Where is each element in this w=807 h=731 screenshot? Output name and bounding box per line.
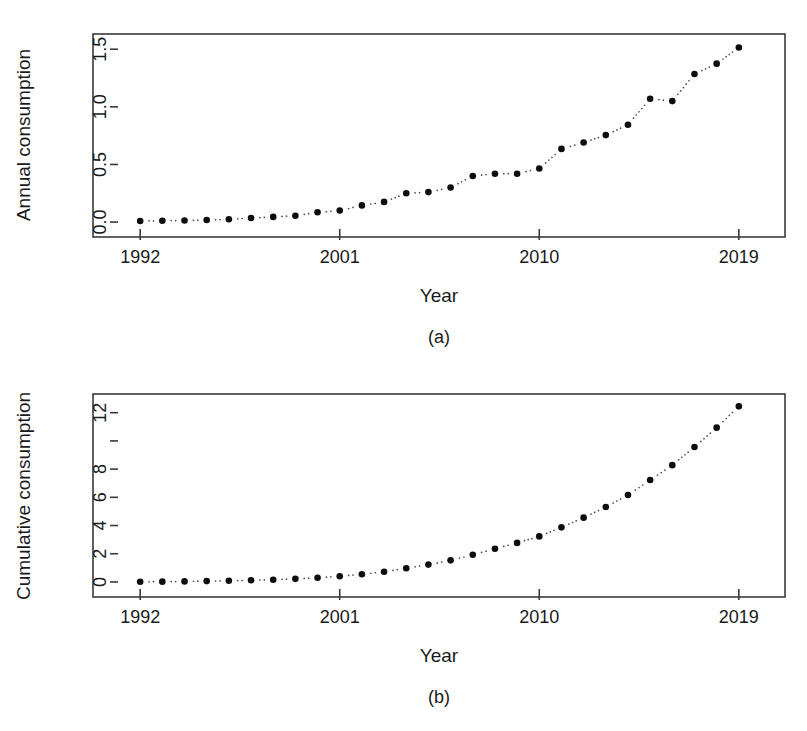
x-tick-label: 2019 [719,607,759,627]
data-point [181,578,188,585]
data-point [203,578,210,585]
y-tick-label: 1.5 [90,37,110,62]
data-point [514,170,521,177]
data-point [314,574,321,581]
data-point [713,424,720,431]
data-point [181,217,188,224]
data-point [159,217,166,224]
x-axis-ticks-b [140,589,739,600]
data-point [536,165,543,172]
data-point [691,444,698,451]
data-point [647,477,654,484]
data-point [336,207,343,214]
data-point [447,184,454,191]
plot-box-a [93,34,785,237]
data-point [602,504,609,511]
data-point [226,578,233,585]
y-tick-label: 12 [90,403,110,423]
x-axis-title-b: Year [420,645,459,666]
y-tick-label: 4 [90,521,110,531]
data-point [447,557,454,564]
panel-b-plot-area: 0246812 1992200120102019 [90,394,785,627]
panel-caption-a: (a) [428,327,450,347]
panel-b: 0246812 1992200120102019 Cumulative cons… [0,366,807,731]
data-point [647,95,654,102]
data-point [580,139,587,146]
data-point [203,217,210,224]
x-tick-label: 2010 [519,247,559,267]
data-point [381,568,388,575]
y-axis-ticks-a [110,49,118,222]
data-point [425,561,432,568]
x-tick-label: 1992 [120,607,160,627]
data-point [226,216,233,223]
panel-b-svg: 0246812 1992200120102019 Cumulative cons… [0,366,807,731]
data-point [558,524,565,531]
y-tick-label: 0.0 [90,210,110,235]
data-point [602,132,609,139]
x-axis-title-a: Year [420,285,459,306]
data-points-b [137,403,742,585]
data-point [736,403,743,410]
data-point [669,462,676,469]
data-point [625,121,632,128]
data-point [381,199,388,206]
data-point [270,214,277,221]
data-point [403,565,410,572]
y-axis-title-a: Annual consumption [13,49,34,221]
data-point [403,190,410,197]
data-point [292,576,299,583]
plot-box-b [93,394,785,597]
data-point [137,218,144,225]
data-point [469,173,476,180]
data-point [159,578,166,585]
x-axis-tick-labels-b: 1992200120102019 [120,607,759,627]
x-tick-label: 2001 [320,247,360,267]
data-point [558,146,565,153]
y-tick-label: 8 [90,464,110,474]
data-point [469,551,476,558]
data-point [625,492,632,499]
data-point [314,209,321,216]
y-axis-title-b: Cumulative consumption [13,392,34,600]
data-point [248,215,255,222]
data-point [736,44,743,51]
data-point [359,571,366,578]
data-point [425,189,432,196]
trend-connector-a [148,51,733,221]
y-tick-label: 0 [90,577,110,587]
data-point [137,579,144,586]
panel-a-svg: 0.00.51.01.5 1992200120102019 Annual con… [0,0,807,365]
data-point [691,71,698,78]
data-point [713,60,720,67]
data-point [248,577,255,584]
data-point [270,576,277,583]
data-point [492,546,499,553]
x-tick-label: 2001 [320,607,360,627]
data-point [580,514,587,521]
data-point [514,540,521,547]
data-point [536,533,543,540]
x-axis-ticks-a [140,229,739,240]
data-point [359,202,366,209]
y-tick-label: 0.5 [90,152,110,177]
y-axis-ticks-b [110,413,118,582]
data-point [492,170,499,177]
panel-caption-b: (b) [428,687,450,707]
panel-a-plot-area: 0.00.51.01.5 1992200120102019 [90,34,785,267]
y-tick-label: 6 [90,492,110,502]
panel-a: 0.00.51.01.5 1992200120102019 Annual con… [0,0,807,365]
x-tick-label: 2019 [719,247,759,267]
data-point [292,212,299,219]
y-tick-label: 1.0 [90,94,110,119]
x-tick-label: 1992 [120,247,160,267]
trend-connector-b [148,412,733,583]
x-axis-tick-labels-a: 1992200120102019 [120,247,759,267]
data-point [669,98,676,105]
x-tick-label: 2010 [519,607,559,627]
y-tick-label: 2 [90,549,110,559]
data-point [336,573,343,580]
figure-container: 0.00.51.01.5 1992200120102019 Annual con… [0,0,807,731]
data-points-a [137,44,742,224]
